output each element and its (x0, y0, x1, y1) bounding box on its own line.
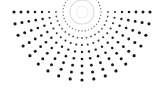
burst-dot (99, 5, 100, 6)
burst-dot (84, 17, 85, 18)
burst-dot (74, 21, 75, 22)
burst-dot (94, 48, 96, 50)
burst-dot (63, 18, 64, 19)
burst-dot (55, 16, 57, 18)
burst-dot (128, 11, 131, 14)
burst-dot (114, 11, 116, 13)
burst-dot (87, 43, 89, 45)
burst-dot (121, 11, 123, 13)
burst-dot (104, 24, 106, 26)
burst-dot (77, 0, 78, 1)
burst-dot (71, 64, 74, 67)
burst-dot (86, 8, 87, 9)
burst-dot (127, 50, 130, 53)
burst-dot (57, 51, 60, 54)
burst-dot (48, 11, 50, 13)
burst-dot (74, 50, 76, 52)
burst-dot (70, 7, 71, 8)
burst-dot (70, 42, 72, 44)
burst-dot (102, 36, 104, 38)
burst-dot (111, 37, 113, 39)
burst-dot (55, 11, 57, 13)
burst-dot (84, 6, 85, 7)
burst-dot (65, 2, 66, 3)
dot-burst-pattern (0, 0, 164, 91)
burst-dot (118, 24, 120, 26)
burst-dot (82, 0, 83, 1)
burst-dot (34, 19, 37, 22)
burst-dot (92, 6, 93, 7)
burst-dot (70, 9, 71, 10)
burst-dot (92, 42, 94, 44)
burst-dot (13, 22, 16, 25)
burst-dot (65, 55, 68, 58)
burst-dot (41, 57, 44, 60)
burst-dot (121, 34, 124, 37)
burst-dot (90, 64, 93, 67)
burst-dot (48, 17, 50, 19)
burst-dot (81, 72, 84, 75)
burst-dot (80, 6, 81, 7)
burst-dot (88, 11, 89, 12)
burst-dot (77, 15, 78, 16)
burst-dot (141, 21, 144, 24)
burst-dot (88, 12, 89, 13)
burst-dot (92, 77, 95, 80)
burst-dot (78, 16, 79, 17)
burst-dot (61, 45, 63, 47)
burst-dot (71, 18, 72, 19)
burst-dot (89, 57, 92, 60)
burst-dot (60, 68, 63, 71)
burst-dot (139, 44, 142, 47)
burst-dot (115, 31, 117, 33)
burst-dot (86, 37, 88, 39)
burst-dot (37, 27, 40, 30)
burst-dot (93, 7, 94, 8)
burst-dot (73, 57, 76, 60)
burst-dot (79, 23, 80, 24)
burst-dot (80, 78, 83, 81)
burst-dot (81, 37, 83, 39)
burst-dot (107, 41, 109, 43)
burst-dot (52, 27, 54, 29)
burst-dot (78, 7, 79, 8)
burst-dot (76, 13, 77, 14)
burst-dot (85, 30, 86, 31)
burst-dot (104, 51, 107, 54)
burst-dot (114, 69, 117, 72)
burst-dot (74, 2, 75, 3)
burst-dot (65, 21, 66, 22)
burst-dot (91, 4, 92, 5)
burst-dot (88, 13, 89, 14)
burst-dot (55, 41, 57, 43)
burst-dot (124, 62, 127, 65)
burst-dot (82, 18, 83, 19)
burst-dot (97, 55, 100, 58)
burst-dot (138, 31, 141, 34)
burst-dot (132, 54, 135, 57)
burst-dot (72, 19, 73, 20)
burst-dot (22, 44, 25, 47)
burst-dot (99, 61, 102, 64)
burst-dot (82, 6, 83, 7)
burst-dot (113, 17, 115, 19)
burst-dot (75, 29, 76, 30)
burst-dot (83, 18, 84, 19)
burst-dot (70, 16, 71, 17)
burst-dot (127, 19, 130, 22)
burst-dot (62, 11, 63, 12)
burst-dot (34, 11, 37, 14)
burst-dot (27, 11, 30, 14)
burst-dot (94, 26, 95, 27)
burst-dot (50, 63, 53, 66)
burst-dot (93, 9, 94, 10)
burst-dot (77, 37, 79, 39)
burst-dot (81, 51, 83, 53)
burst-dot (98, 21, 99, 22)
burst-dot (88, 29, 89, 30)
burst-dot (81, 44, 83, 46)
burst-dot (27, 20, 30, 23)
burst-dot (76, 12, 77, 13)
burst-dot (81, 58, 84, 61)
burst-dot (63, 15, 64, 16)
